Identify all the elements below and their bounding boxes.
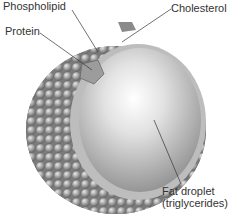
label-fat-droplet-line2: (triglycerides) bbox=[162, 198, 228, 210]
label-phospholipid: Phospholipid bbox=[3, 1, 66, 13]
label-fat-droplet-line1: Fat droplet bbox=[162, 186, 228, 198]
cholesterol-shape bbox=[118, 22, 136, 32]
phospholipid-leader bbox=[72, 10, 98, 52]
label-cholesterol: Cholesterol bbox=[171, 3, 227, 15]
label-protein: Protein bbox=[5, 26, 40, 38]
label-fat-droplet: Fat droplet (triglycerides) bbox=[162, 186, 228, 209]
